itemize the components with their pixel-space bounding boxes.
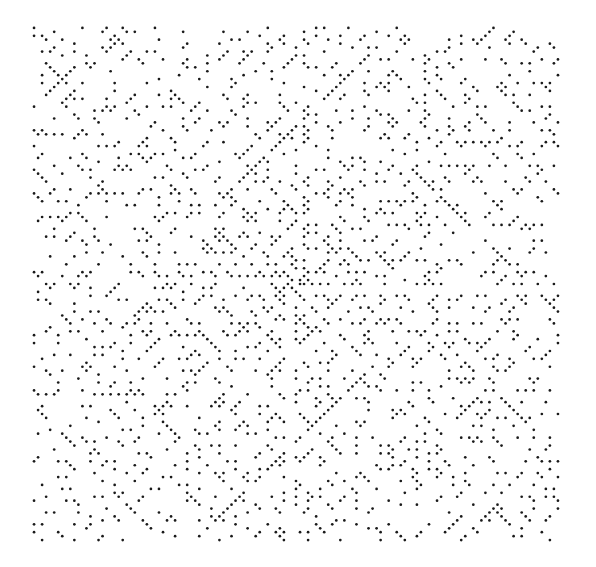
ulam-prime-spiral-plot xyxy=(0,0,596,567)
